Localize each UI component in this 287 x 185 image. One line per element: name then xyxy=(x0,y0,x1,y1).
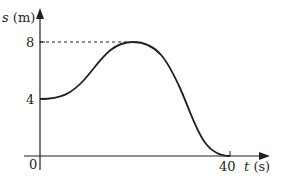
y-axis-arrow-icon xyxy=(36,8,44,19)
y-axis-label: s (m) xyxy=(2,10,35,25)
origin-label: 0 xyxy=(29,157,37,172)
position-time-chart: s (m) 8 4 0 40 t (s) xyxy=(0,0,287,185)
position-curve xyxy=(40,42,230,156)
x-axis-label: t (s) xyxy=(244,159,270,174)
y-tick-4: 4 xyxy=(26,92,34,107)
y-tick-8: 8 xyxy=(26,35,34,50)
y-axis xyxy=(36,8,44,170)
x-tick-40: 40 xyxy=(219,159,236,174)
